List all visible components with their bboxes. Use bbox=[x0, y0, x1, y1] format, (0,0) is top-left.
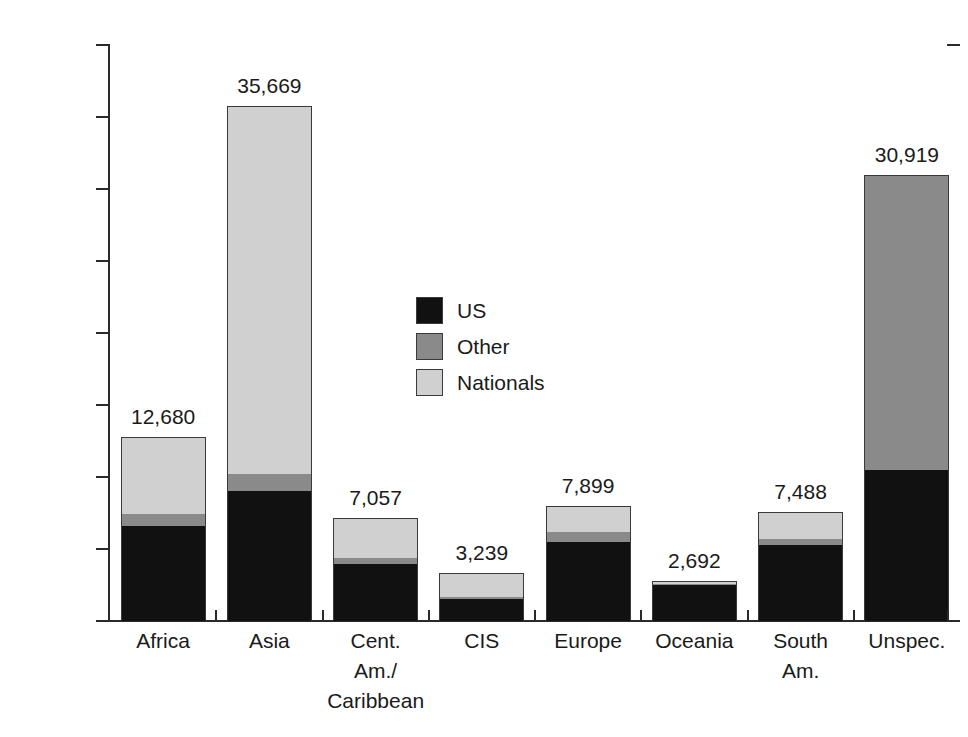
bar-segment-nationals[interactable] bbox=[122, 438, 205, 514]
bar-group[interactable]: 2,692 bbox=[652, 44, 737, 620]
x-axis-label-line: Caribbean bbox=[323, 686, 429, 716]
bar-value-label: 7,057 bbox=[349, 486, 402, 510]
bar-value-label: 35,669 bbox=[237, 74, 301, 98]
bar-value-label: 3,239 bbox=[456, 541, 509, 565]
x-axis-tick-mark bbox=[747, 610, 749, 622]
bar-group[interactable]: 7,488 bbox=[758, 44, 843, 620]
x-axis-tick-mark bbox=[640, 610, 642, 622]
y-axis-tick-mark bbox=[96, 548, 109, 550]
x-axis-label: Oceania bbox=[641, 626, 747, 656]
legend-label: Other bbox=[457, 333, 510, 360]
y-axis-tick-mark bbox=[96, 260, 109, 262]
legend-label: Nationals bbox=[457, 369, 545, 396]
bar-stack[interactable] bbox=[652, 581, 737, 620]
bar-segment-us[interactable] bbox=[334, 564, 417, 621]
x-axis-tick-mark bbox=[322, 610, 324, 622]
x-axis-tick-mark bbox=[215, 610, 217, 622]
bar-segment-nationals[interactable] bbox=[334, 519, 417, 557]
x-axis-tick-mark bbox=[534, 610, 536, 622]
x-axis-label: CIS bbox=[429, 626, 535, 656]
bar-segment-nationals[interactable] bbox=[440, 574, 523, 596]
bar-value-label: 2,692 bbox=[668, 549, 721, 573]
bar-segment-us[interactable] bbox=[547, 542, 630, 621]
legend-swatch bbox=[416, 297, 443, 324]
x-axis-label: Unspec. bbox=[854, 626, 960, 656]
x-axis-label: Cent.Am./Caribbean bbox=[323, 626, 429, 716]
bar-stack[interactable] bbox=[121, 437, 206, 620]
bar-segment-us[interactable] bbox=[122, 526, 205, 621]
legend-swatch bbox=[416, 333, 443, 360]
y-axis-tick-mark bbox=[96, 620, 109, 622]
x-axis-label: Asia bbox=[216, 626, 322, 656]
legend-item[interactable]: Nationals bbox=[416, 364, 606, 400]
bar-segment-us[interactable] bbox=[759, 545, 842, 621]
bar-stack[interactable] bbox=[333, 518, 418, 620]
bar-group[interactable]: 30,919 bbox=[864, 44, 949, 620]
x-axis-label: Africa bbox=[110, 626, 216, 656]
bar-segment-other[interactable] bbox=[228, 474, 311, 491]
x-axis-label: Europe bbox=[535, 626, 641, 656]
bar-segment-other[interactable] bbox=[122, 514, 205, 526]
stacked-bar-chart: 0500010000150002000025000300003500040000… bbox=[0, 0, 968, 737]
bar-value-label: 30,919 bbox=[875, 143, 939, 167]
legend-item[interactable]: Other bbox=[416, 328, 606, 364]
plot-corner-tick bbox=[947, 610, 949, 622]
bar-segment-nationals[interactable] bbox=[759, 513, 842, 539]
y-axis-tick-mark bbox=[96, 332, 109, 334]
bar-segment-us[interactable] bbox=[653, 585, 736, 621]
bar-segment-us[interactable] bbox=[865, 470, 948, 621]
bar-stack[interactable] bbox=[227, 106, 312, 620]
bar-value-label: 12,680 bbox=[131, 405, 195, 429]
legend-item[interactable]: US bbox=[416, 292, 606, 328]
bar-value-label: 7,488 bbox=[774, 480, 827, 504]
legend-swatch bbox=[416, 369, 443, 396]
bar-segment-nationals[interactable] bbox=[547, 507, 630, 531]
plot-corner-tick bbox=[947, 44, 960, 46]
x-axis-label-line: Am. bbox=[748, 656, 854, 686]
bar-group[interactable]: 35,669 bbox=[227, 44, 312, 620]
legend-label: US bbox=[457, 297, 486, 324]
bar-stack[interactable] bbox=[864, 175, 949, 620]
bar-value-label: 7,899 bbox=[562, 474, 615, 498]
x-axis-label-line: Unspec. bbox=[854, 626, 960, 656]
bar-segment-other[interactable] bbox=[547, 532, 630, 542]
x-axis-label-line: CIS bbox=[429, 626, 535, 656]
bar-group[interactable]: 7,057 bbox=[333, 44, 418, 620]
x-axis-tick-mark bbox=[853, 610, 855, 622]
y-axis-tick-mark bbox=[96, 44, 109, 46]
y-axis-tick-mark bbox=[96, 404, 109, 406]
bar-segment-other[interactable] bbox=[865, 176, 948, 470]
x-axis-tick-mark bbox=[428, 610, 430, 622]
x-axis-label-line: Asia bbox=[216, 626, 322, 656]
bar-segment-us[interactable] bbox=[440, 599, 523, 621]
x-axis-label-line: Cent. bbox=[323, 626, 429, 656]
y-axis-tick-mark bbox=[96, 188, 109, 190]
bar-stack[interactable] bbox=[546, 506, 631, 620]
y-axis-tick-mark bbox=[96, 116, 109, 118]
x-axis-label-line: South bbox=[748, 626, 854, 656]
bar-segment-nationals[interactable] bbox=[228, 107, 311, 474]
x-axis-label-line: Oceania bbox=[641, 626, 747, 656]
x-axis-label: SouthAm. bbox=[748, 626, 854, 686]
x-axis-labels: AfricaAsiaCent.Am./CaribbeanCISEuropeOce… bbox=[110, 626, 960, 736]
bar-stack[interactable] bbox=[439, 573, 524, 620]
bar-segment-us[interactable] bbox=[228, 491, 311, 621]
bar-group[interactable]: 12,680 bbox=[121, 44, 206, 620]
x-axis-label-line: Europe bbox=[535, 626, 641, 656]
chart-legend: USOtherNationals bbox=[416, 292, 606, 400]
x-axis-label-line: Am./ bbox=[323, 656, 429, 686]
bar-stack[interactable] bbox=[758, 512, 843, 620]
y-axis-tick-mark bbox=[96, 476, 109, 478]
x-axis-label-line: Africa bbox=[110, 626, 216, 656]
